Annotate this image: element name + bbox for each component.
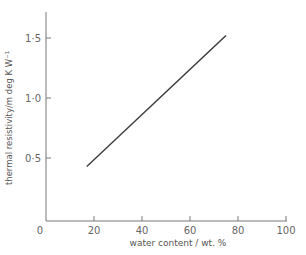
- x-tick-label: 20: [88, 225, 101, 236]
- chart: 020406080100 0·51·01·5 water content / w…: [0, 0, 306, 255]
- y-tick-label: 1·5: [25, 33, 41, 44]
- x-tick-label: 0: [37, 225, 43, 236]
- y-ticks: 0·51·01·5: [25, 33, 51, 164]
- x-tick-label: 100: [276, 225, 295, 236]
- x-ticks: 020406080100: [37, 216, 296, 236]
- x-tick-label: 40: [136, 225, 149, 236]
- data-line: [87, 36, 226, 167]
- y-tick-label: 0·5: [25, 153, 41, 164]
- x-axis-label: water content / wt. %: [130, 238, 227, 248]
- x-tick-label: 80: [232, 225, 245, 236]
- x-tick-label: 60: [184, 225, 197, 236]
- series-layer: [87, 36, 226, 167]
- y-tick-label: 1·0: [25, 93, 41, 104]
- y-axis-label: thermal resistivity/m deg K W⁻¹: [4, 51, 14, 185]
- axes: 020406080100 0·51·01·5: [25, 12, 295, 236]
